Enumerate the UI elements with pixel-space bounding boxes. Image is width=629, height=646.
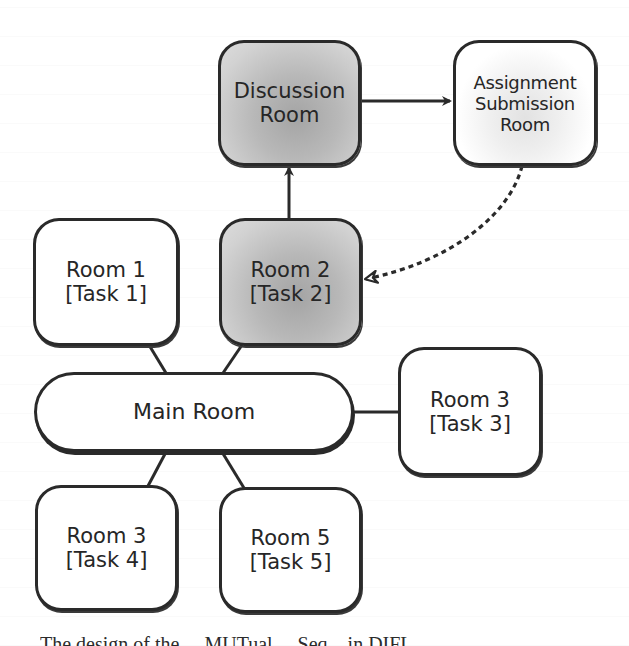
edge-main-to-room2 <box>223 345 242 373</box>
node-label: Room 3 <box>430 388 510 412</box>
node-main-room: Main Room <box>34 372 354 452</box>
node-label: Room 3 <box>67 524 147 548</box>
node-label: Discussion <box>234 79 346 103</box>
edge-main-to-room5 <box>222 452 244 488</box>
node-discussion-room: Discussion Room <box>218 40 361 166</box>
node-label: Room <box>500 114 550 135</box>
node-label: Room 1 <box>66 258 146 282</box>
node-label: [Task 2] <box>250 282 332 306</box>
node-label: [Task 4] <box>66 548 148 572</box>
edge-main-to-room1 <box>149 345 166 373</box>
node-label: Room <box>260 103 320 127</box>
node-label: Room 2 <box>251 258 331 282</box>
node-label: Submission <box>475 93 575 114</box>
figure-caption: The design of the ... MUTual ... Seq... … <box>40 633 629 646</box>
node-label: Room 5 <box>251 526 331 550</box>
edge-main-to-room3-bottom <box>148 452 166 486</box>
node-room-3-task-3: Room 3 [Task 3] <box>398 347 542 476</box>
node-label: [Task 5] <box>250 550 332 574</box>
node-label: Assignment <box>474 72 577 93</box>
node-label: [Task 1] <box>65 282 147 306</box>
node-label: Main Room <box>133 400 255 424</box>
node-label: [Task 3] <box>429 412 511 436</box>
node-room-3-task-4: Room 3 [Task 4] <box>35 485 178 611</box>
node-room-1: Room 1 [Task 1] <box>33 218 179 346</box>
edge-assignment-to-room2 <box>366 166 522 279</box>
node-room-2: Room 2 [Task 2] <box>219 218 362 346</box>
node-room-5: Room 5 [Task 5] <box>219 487 362 613</box>
node-assignment-submission-room: Assignment Submission Room <box>453 40 597 166</box>
